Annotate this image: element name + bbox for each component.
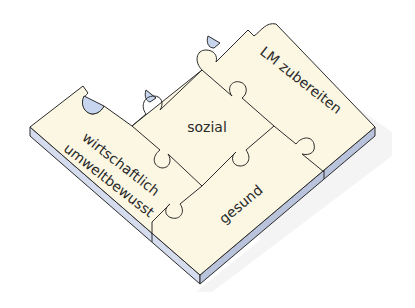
puzzle-svg: sozial LM zubereiten wirtschaftlich umwe…	[0, 0, 415, 308]
label-sozial: sozial	[187, 119, 227, 135]
puzzle-diagram: sozial LM zubereiten wirtschaftlich umwe…	[0, 0, 415, 308]
